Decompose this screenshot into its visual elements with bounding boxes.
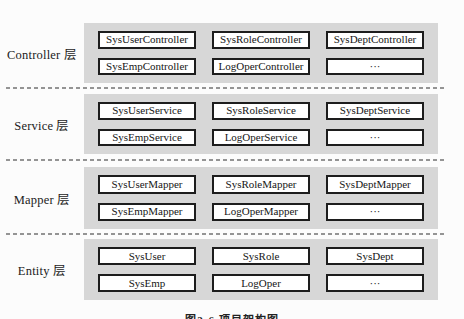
figure-caption: 图2-6 项目架构图 — [0, 311, 464, 319]
component-box: SysDeptMapper — [326, 175, 424, 194]
component-box: LogOper — [212, 274, 310, 292]
component-box: SysUserMapper — [98, 175, 196, 194]
component-box-ellipsis: ··· — [326, 58, 424, 76]
component-box: SysEmpService — [98, 129, 196, 147]
component-box: SysRole — [212, 247, 310, 265]
layer-label-entity: Entity 层 — [0, 239, 84, 300]
layer-band-controller: SysUserController SysRoleController SysD… — [84, 23, 438, 83]
component-box: SysEmpMapper — [98, 203, 196, 222]
component-box-ellipsis: ··· — [326, 203, 424, 222]
component-box-ellipsis: ··· — [326, 274, 424, 292]
component-box: SysDeptService — [326, 102, 424, 120]
component-box: LogOperMapper — [212, 203, 310, 222]
layer-row-controller: Controller 层 SysUserController SysRoleCo… — [0, 23, 464, 83]
component-box: SysEmpController — [98, 58, 196, 76]
layer-row-entity: Entity 层 SysUser SysRole SysDept SysEmp … — [0, 239, 464, 300]
component-box: SysEmp — [98, 274, 196, 292]
component-box: SysRoleService — [212, 102, 310, 120]
component-box: SysRoleMapper — [212, 175, 310, 194]
component-box-ellipsis: ··· — [326, 129, 424, 147]
architecture-diagram: Controller 层 SysUserController SysRoleCo… — [0, 0, 464, 319]
component-box: SysDeptController — [326, 31, 424, 49]
component-box: SysRoleController — [212, 31, 310, 49]
dashed-separator — [6, 87, 444, 89]
component-box: SysUser — [98, 247, 196, 265]
layer-label-service: Service 层 — [0, 94, 84, 154]
layer-row-mapper: Mapper 层 SysUserMapper SysRoleMapper Sys… — [0, 167, 464, 229]
layer-band-entity: SysUser SysRole SysDept SysEmp LogOper ·… — [84, 239, 438, 300]
layer-label-mapper: Mapper 层 — [0, 167, 84, 229]
layer-band-service: SysUserService SysRoleService SysDeptSer… — [84, 94, 438, 154]
dashed-separator — [6, 159, 444, 161]
dashed-separator — [6, 233, 444, 235]
layer-label-controller: Controller 层 — [0, 23, 84, 83]
component-box: SysUserController — [98, 31, 196, 49]
layer-band-mapper: SysUserMapper SysRoleMapper SysDeptMappe… — [84, 167, 438, 229]
component-box: SysUserService — [98, 102, 196, 120]
component-box: LogOperController — [212, 58, 310, 76]
component-box: SysDept — [326, 247, 424, 265]
component-box: LogOperService — [212, 129, 310, 147]
layer-row-service: Service 层 SysUserService SysRoleService … — [0, 94, 464, 154]
